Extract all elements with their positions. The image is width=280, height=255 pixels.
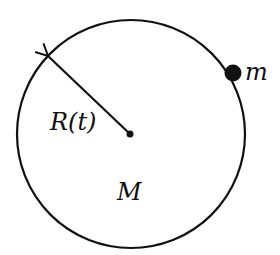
center-point — [127, 131, 134, 138]
diagram-svg: R(t) M m — [0, 0, 280, 255]
radius-label: R(t) — [49, 108, 96, 136]
particle-m — [225, 65, 242, 82]
diagram-canvas: R(t) M m — [0, 0, 280, 255]
central-mass-label: M — [116, 178, 143, 206]
particle-mass-label: m — [245, 58, 268, 86]
